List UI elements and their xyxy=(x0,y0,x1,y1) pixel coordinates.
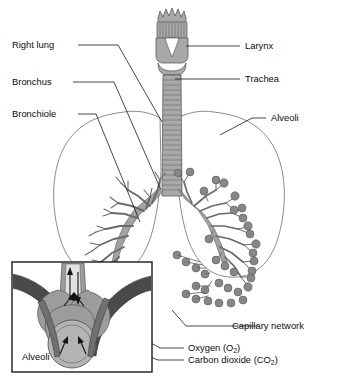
cricoid-cartilage xyxy=(158,63,186,75)
leader-right-lung xyxy=(78,45,162,122)
alveolus-sac xyxy=(215,279,223,287)
alveolus-sac xyxy=(231,192,239,200)
label-carbon-dioxide-paren: ) xyxy=(275,354,278,365)
alveolus-sac xyxy=(204,297,212,305)
alveolus-sac xyxy=(200,187,208,195)
respiratory-diagram-canvas: Alveoli Right lung Bronchus Bronchiole L… xyxy=(0,0,338,383)
alveolus-sac xyxy=(220,179,228,187)
label-capillary-network: Capillary network xyxy=(232,320,304,331)
label-bronchus: Bronchus xyxy=(12,76,52,87)
alveolus-sac xyxy=(215,299,223,307)
trachea-structure xyxy=(162,75,182,196)
alveolus-sac xyxy=(230,268,238,276)
label-carbon-dioxide-text: Carbon dioxide (CO xyxy=(188,354,271,365)
label-oxygen-text: Oxygen (O xyxy=(188,342,233,353)
alveolus-sac xyxy=(248,267,256,275)
alveolus-sac xyxy=(250,257,258,265)
label-trachea: Trachea xyxy=(245,73,280,84)
alveolus-sac xyxy=(244,222,252,230)
label-bronchiole: Bronchiole xyxy=(12,108,56,119)
alveolus-sac xyxy=(230,206,238,214)
alveolus-sac xyxy=(186,168,194,176)
label-right-lung: Right lung xyxy=(12,39,54,50)
alveolus-sac xyxy=(205,235,213,243)
label-oxygen-paren: ) xyxy=(237,342,240,353)
alveolus-sac xyxy=(246,230,254,238)
alveolus-sac xyxy=(239,296,247,304)
respiratory-system-figure: Alveoli Right lung Bronchus Bronchiole L… xyxy=(0,0,338,383)
label-oxygen: Oxygen (O2) xyxy=(188,342,240,354)
larynx-structure xyxy=(156,8,188,75)
alveolus-sac xyxy=(212,176,220,184)
trachea-tube xyxy=(162,75,182,196)
label-alveoli: Alveoli xyxy=(271,112,299,123)
alveolus-sac xyxy=(227,299,235,307)
inset-alveoli-label: Alveoli xyxy=(22,351,50,362)
label-carbon-dioxide: Carbon dioxide (CO2) xyxy=(188,354,278,366)
right-lung-outline xyxy=(54,111,161,277)
alveolus-sac xyxy=(212,256,220,264)
left-lung-outline-group xyxy=(54,111,161,277)
alveolus-sac xyxy=(221,262,229,270)
alveoli-inset: Alveoli xyxy=(12,262,152,372)
alveolus-sac xyxy=(244,283,252,291)
alveolus-sac xyxy=(247,274,255,282)
alveolus-sac xyxy=(224,284,232,292)
larynx-crown xyxy=(158,8,186,24)
alveolus-sac xyxy=(249,249,257,257)
alveolus-sac xyxy=(238,204,246,212)
alveolus-sac xyxy=(234,288,242,296)
alveolus-sac xyxy=(239,214,247,222)
alveolus-sac xyxy=(174,169,182,177)
label-larynx: Larynx xyxy=(245,40,273,51)
alveolus-sac xyxy=(252,240,260,248)
